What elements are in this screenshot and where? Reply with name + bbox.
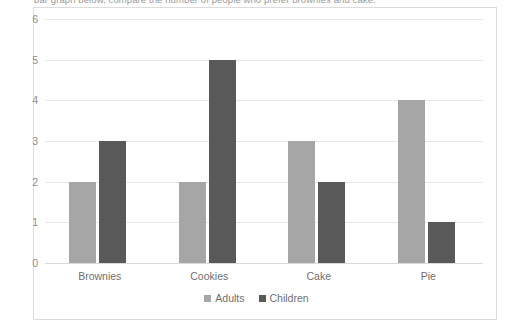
- bar-children-cake: [318, 182, 345, 263]
- gridline: [45, 263, 483, 264]
- legend-item-adults[interactable]: Adults: [204, 292, 244, 304]
- category-label-cookies: Cookies: [190, 270, 228, 282]
- plot-area: [45, 19, 483, 263]
- bar-group: [45, 19, 155, 263]
- bar-group: [155, 19, 265, 263]
- bar-adults-cookies: [179, 182, 206, 263]
- clipped-caption-text: bar graph below, compare the number of p…: [34, 0, 494, 6]
- y-tick-label: 5: [14, 54, 38, 66]
- bar-group: [264, 19, 374, 263]
- bars-layer: [45, 19, 483, 263]
- chart-legend: AdultsChildren: [0, 292, 513, 304]
- y-tick-label: 4: [14, 94, 38, 106]
- category-label-brownies: Brownies: [78, 270, 121, 282]
- y-tick-label: 2: [14, 176, 38, 188]
- y-tick-label: 1: [14, 216, 38, 228]
- legend-label: Adults: [215, 292, 244, 304]
- legend-item-children[interactable]: Children: [259, 292, 309, 304]
- bar-adults-brownies: [69, 182, 96, 263]
- bar-adults-pie: [398, 100, 425, 263]
- y-tick-label: 6: [14, 13, 38, 25]
- bar-children-cookies: [209, 60, 236, 263]
- y-tick-label: 0: [14, 257, 38, 269]
- bar-children-brownies: [99, 141, 126, 263]
- category-label-pie: Pie: [421, 270, 436, 282]
- y-tick-label: 3: [14, 135, 38, 147]
- legend-swatch-icon: [204, 295, 211, 302]
- bar-group: [374, 19, 484, 263]
- category-label-cake: Cake: [306, 270, 331, 282]
- legend-label: Children: [270, 292, 309, 304]
- bar-children-pie: [428, 222, 455, 263]
- legend-swatch-icon: [259, 295, 266, 302]
- bar-adults-cake: [288, 141, 315, 263]
